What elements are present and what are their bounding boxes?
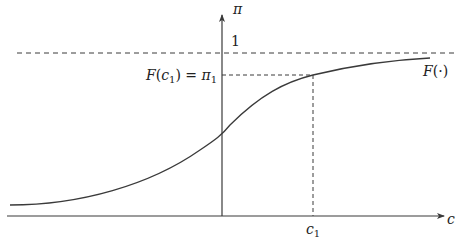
pi1-label-close: ) = [175, 67, 201, 83]
pi1-label-val-sub: 1 [211, 74, 217, 85]
x-axis-label: c [447, 211, 455, 227]
cdf-curve [10, 58, 430, 205]
asymptote-label: 1 [231, 33, 240, 49]
c1-label: c1 [306, 221, 320, 239]
y-axis-label: π [232, 1, 243, 17]
cdf-diagram: π 1 F(c1) = π1 F(·) c1 c [0, 0, 456, 239]
c1-label-sub: 1 [314, 228, 320, 239]
pi1-label-arg: c [161, 67, 169, 83]
pi1-label: F(c1) = π1 [145, 67, 217, 85]
curve-label: F(·) [422, 63, 448, 79]
c1-label-base: c [306, 221, 314, 237]
curve-label-arg: (·) [433, 63, 448, 79]
